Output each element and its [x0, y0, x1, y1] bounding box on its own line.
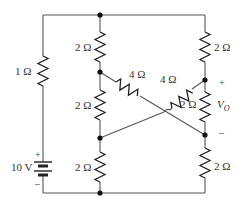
vo-label: VO: [217, 98, 230, 113]
resistor-right-top: [200, 32, 210, 62]
resistor-right-bottom: [200, 148, 210, 178]
label-diag-right: 4 Ω: [160, 73, 176, 85]
node-top-middle: [97, 12, 102, 17]
node-middle-lower: [97, 135, 102, 140]
node-bottom-middle: [97, 190, 102, 195]
resistor-1ohm: [38, 56, 48, 86]
label-diag-left: 4 Ω: [129, 68, 145, 80]
source-minus: –: [34, 178, 41, 189]
label-1ohm: 1 Ω: [15, 65, 31, 77]
vo-minus: –: [218, 127, 225, 138]
label-mid-top: 2 Ω: [75, 41, 91, 53]
node-right-upper: [202, 77, 207, 82]
resistor-diag-left: [113, 78, 140, 100]
battery-icon: [34, 162, 52, 175]
label-right-top: 2 Ω: [214, 41, 230, 53]
vo-plus: +: [219, 77, 225, 88]
resistor-right-middle: [200, 92, 210, 122]
label-right-bottom: 2 Ω: [214, 160, 230, 172]
resistor-mid-middle: [95, 90, 105, 120]
circuit-diagram: 1 Ω 2 Ω 2 Ω 2 Ω 2 Ω 2 Ω 2 Ω 4 Ω 4 Ω 10 V…: [0, 0, 243, 212]
resistor-mid-top: [95, 32, 105, 62]
node-right-lower: [202, 132, 207, 137]
label-mid-bottom: 2 Ω: [75, 161, 91, 173]
label-source: 10 V: [11, 161, 33, 173]
node-middle-upper: [97, 69, 102, 74]
resistor-mid-bottom: [95, 152, 105, 182]
label-right-middle: 2 Ω: [180, 98, 196, 110]
label-mid-middle: 2 Ω: [75, 99, 91, 111]
source-plus: +: [35, 149, 41, 160]
